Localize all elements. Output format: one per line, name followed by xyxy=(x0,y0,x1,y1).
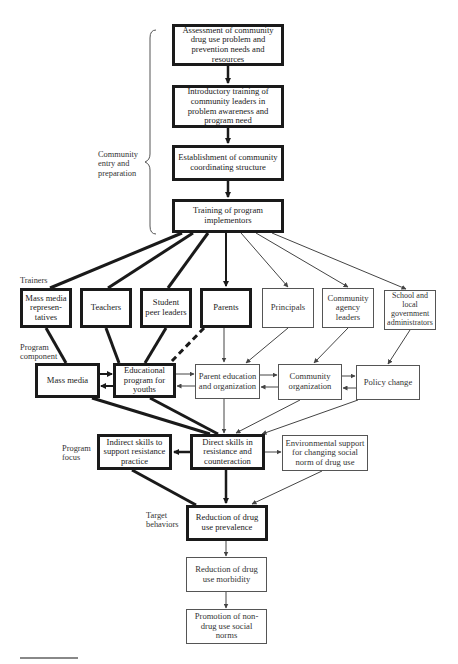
node-school-gov-admins: School and local government administrato… xyxy=(384,290,436,330)
label-community-entry: Community entry and preparation xyxy=(98,150,148,178)
node-reduction-prevalence: Reduction of drug use prevalence xyxy=(186,505,268,541)
node-assessment: Assessment of community drug use problem… xyxy=(172,24,284,66)
node-promotion-social-norms: Promotion of non-drug use social norms xyxy=(186,609,267,644)
brace xyxy=(145,30,156,234)
node-educational-program: Educational program for youths xyxy=(113,363,176,398)
node-indirect-skills: Indirect skills to support resistance pr… xyxy=(97,434,172,470)
node-direct-skills: Direct skills in resistance and countera… xyxy=(190,434,265,470)
node-student-peer-leaders: Student peer leaders xyxy=(140,288,192,328)
node-establishment: Establishment of community coordinating … xyxy=(172,145,284,181)
label-program-focus: Program focus xyxy=(62,444,96,463)
node-community-organization: Community organization xyxy=(278,364,342,400)
node-introductory-training: Introductory training of community leade… xyxy=(172,85,284,128)
node-mass-media-reps: Mass media represen-tatives xyxy=(20,288,72,328)
label-program-component: Program component xyxy=(20,343,70,362)
footer-rule xyxy=(20,657,78,659)
node-parent-education: Parent education and organization xyxy=(195,364,260,399)
node-principals: Principals xyxy=(262,288,314,328)
node-parents: Parents xyxy=(200,288,252,328)
node-community-agency-leaders: Community agency leaders xyxy=(322,288,374,328)
label-trainers: Trainers xyxy=(20,276,48,285)
node-mass-media: Mass media xyxy=(35,363,100,398)
label-target-behaviors: Target behaviors xyxy=(146,511,186,530)
node-training: Training of program implementors xyxy=(172,199,284,233)
node-policy-change: Policy change xyxy=(356,365,420,400)
node-teachers: Teachers xyxy=(80,288,132,328)
node-environmental-support: Environmental support for changing socia… xyxy=(282,435,368,471)
node-reduction-morbidity: Reduction of drug use morbidity xyxy=(186,557,267,592)
